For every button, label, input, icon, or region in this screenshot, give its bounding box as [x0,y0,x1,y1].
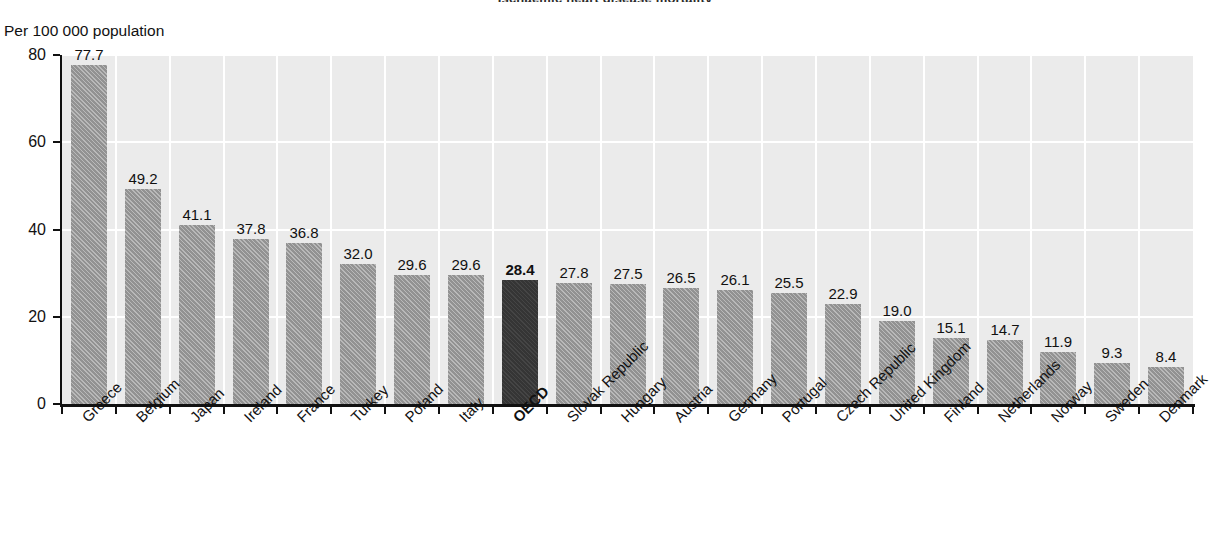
y-axis-tick [53,54,60,56]
x-axis-tick [923,407,925,414]
gridline-vertical [707,55,709,404]
bar-italy[interactable] [448,275,484,404]
gridline-vertical [438,55,440,404]
bar-value-label: 8.4 [1139,349,1193,364]
x-axis-tick [438,407,440,414]
gridline-horizontal [62,141,1193,143]
chart-root: Ischaemic heart disease mortality Per 10… [0,0,1210,553]
bar-value-label: 27.5 [601,266,655,281]
gridline-vertical [1030,55,1032,404]
x-axis-tick [653,407,655,414]
x-axis-tick [1138,407,1140,414]
gridline-vertical [546,55,548,404]
bar-value-label: 14.7 [978,322,1032,337]
y-axis-tick-label: 0 [0,396,46,412]
gridline-vertical [653,55,655,404]
bar-value-label: 41.1 [170,207,224,222]
bar-value-label: 77.7 [62,47,116,62]
chart-title: Ischaemic heart disease mortality [0,0,1210,2]
bar-japan[interactable] [179,225,215,404]
bar-turkey[interactable] [340,264,376,404]
gridline-vertical [600,55,602,404]
bar-value-label: 28.4 [493,262,547,277]
bar-portugal[interactable] [771,293,807,404]
gridline-vertical [815,55,817,404]
bar-germany[interactable] [717,290,753,404]
bar-value-label: 32.0 [331,246,385,261]
bar-value-label: 26.5 [654,270,708,285]
bar-value-label: 29.6 [385,257,439,272]
x-axis-tick [761,407,763,414]
gridline-vertical [869,55,871,404]
bar-value-label: 11.9 [1031,334,1085,349]
gridline-horizontal [62,54,1193,56]
bar-poland[interactable] [394,275,430,404]
x-axis-tick [492,407,494,414]
gridline-vertical [761,55,763,404]
bar-value-label: 9.3 [1085,345,1139,360]
bar-slovak-republic[interactable] [556,283,592,404]
bar-belgium[interactable] [125,189,161,404]
y-axis-tick-label: 80 [0,47,46,63]
y-axis-tick-label: 60 [0,134,46,150]
x-axis-tick [600,407,602,414]
x-axis-tick [384,407,386,414]
x-axis-tick [977,407,979,414]
x-axis-tick [707,407,709,414]
bar-ireland[interactable] [233,239,269,404]
x-axis-tick [169,407,171,414]
bar-oecd[interactable] [502,280,538,404]
bar-value-label: 25.5 [762,275,816,290]
y-axis-tick [53,403,60,405]
bar-value-label: 27.8 [547,265,601,280]
bar-value-label: 37.8 [224,221,278,236]
x-axis-tick [330,407,332,414]
y-axis-tick-label: 20 [0,309,46,325]
x-axis-tick [1084,407,1086,414]
x-axis-tick [276,407,278,414]
gridline-vertical [492,55,494,404]
bar-value-label: 26.1 [708,272,762,287]
x-axis-tick [869,407,871,414]
y-axis-tick-label: 40 [0,222,46,238]
bar-greece[interactable] [71,65,107,404]
gridline-vertical [115,55,117,404]
bar-austria[interactable] [663,288,699,404]
bar-value-label: 36.8 [277,225,331,240]
x-axis-tick [1192,407,1194,414]
gridline-vertical [384,55,386,404]
y-axis-tick [53,316,60,318]
x-axis-tick [223,407,225,414]
bar-value-label: 49.2 [116,171,170,186]
gridline-vertical [169,55,171,404]
bar-value-label: 19.0 [870,303,924,318]
bar-france[interactable] [286,243,322,404]
x-axis-tick [815,407,817,414]
y-axis-tick [53,141,60,143]
y-axis-unit-label: Per 100 000 population [4,22,164,40]
x-axis-tick [115,407,117,414]
x-axis-tick [546,407,548,414]
x-axis-tick [1030,407,1032,414]
bar-value-label: 15.1 [924,320,978,335]
bar-value-label: 22.9 [816,286,870,301]
y-axis-line [60,55,62,405]
x-axis-tick [61,407,63,414]
gridline-vertical [977,55,979,404]
gridline-vertical [923,55,925,404]
bar-value-label: 29.6 [439,257,493,272]
y-axis-tick [53,229,60,231]
